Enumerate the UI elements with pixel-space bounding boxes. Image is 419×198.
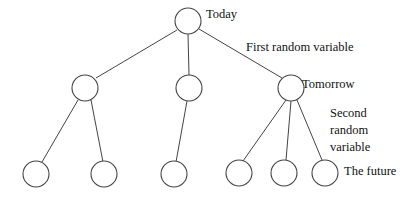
node-tomorrow-1 <box>72 75 98 101</box>
node-future-6 <box>312 160 338 186</box>
edge <box>243 100 286 161</box>
edge <box>176 101 187 162</box>
edge <box>188 34 189 75</box>
node-today <box>175 8 201 34</box>
node-tomorrow-2 <box>176 75 202 101</box>
edge <box>96 30 177 78</box>
edge <box>42 100 78 162</box>
edge <box>286 101 291 160</box>
label-the-future: The future <box>344 164 396 179</box>
node-future-3 <box>161 161 187 187</box>
label-today: Today <box>206 7 237 22</box>
label-second-rv-line2: random <box>330 123 368 138</box>
node-future-2 <box>91 161 117 187</box>
edge <box>91 100 103 162</box>
node-tomorrow-3 <box>278 75 304 101</box>
node-future-5 <box>271 160 297 186</box>
label-second-rv-line3: variable <box>330 140 370 155</box>
label-tomorrow: Tomorrow <box>302 77 355 92</box>
label-first-random-variable: First random variable <box>246 40 354 55</box>
label-second-rv-line1: Second <box>330 106 367 121</box>
edge <box>297 100 322 160</box>
node-future-1 <box>23 161 49 187</box>
node-future-4 <box>226 160 252 186</box>
